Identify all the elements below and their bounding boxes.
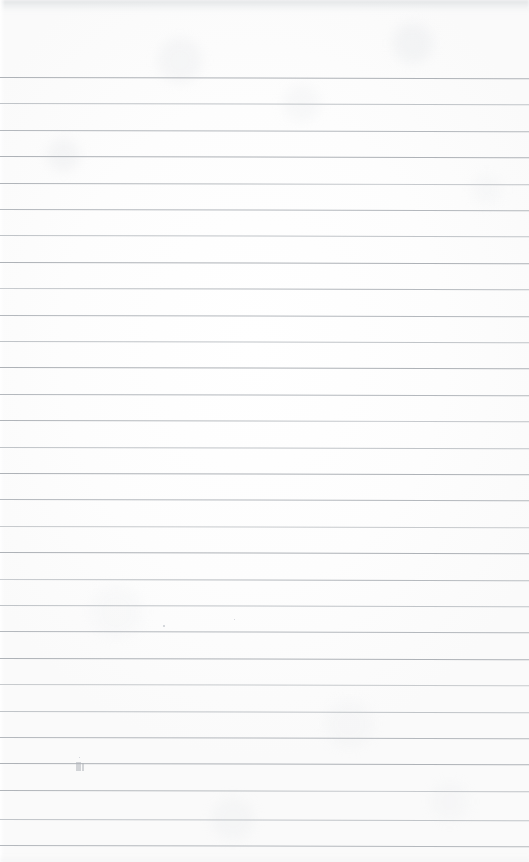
writing-surface[interactable] xyxy=(0,0,529,862)
scanned-notebook-page xyxy=(0,0,529,862)
